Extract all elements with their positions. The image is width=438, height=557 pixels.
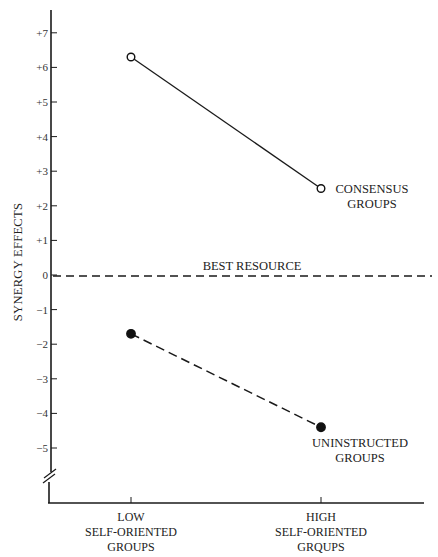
y-tick-label: −2 — [36, 338, 48, 350]
y-tick-label: −5 — [36, 442, 48, 454]
series-line — [131, 334, 321, 427]
open-circle-marker — [127, 53, 135, 61]
x-category-label: GROUPS — [107, 540, 154, 554]
synergy-chart: SYNERGY EFFECTS +7+6+5+4+3+2+10−1−2−3−4−… — [0, 0, 438, 557]
y-tick-label: +2 — [36, 200, 48, 212]
axis-break-mark — [44, 469, 56, 478]
series-line — [131, 57, 321, 188]
y-ticks: +7+6+5+4+3+2+10−1−2−3−4−5 — [36, 27, 57, 454]
y-tick-label: +5 — [36, 96, 48, 108]
filled-circle-marker — [317, 423, 325, 431]
y-tick-label: −4 — [36, 407, 48, 419]
y-tick-label: −3 — [36, 373, 48, 385]
series-label: GROUPS — [335, 451, 384, 465]
y-tick-label: +4 — [36, 131, 48, 143]
x-category-label: SELF-ORIENTED — [85, 525, 177, 539]
x-category-label: LOW — [117, 510, 145, 524]
series-label: UNINSTRUCTED — [312, 436, 408, 450]
filled-circle-marker — [127, 330, 135, 338]
y-tick-label: +7 — [36, 27, 48, 39]
y-tick-label: +6 — [36, 61, 48, 73]
y-tick-label: +3 — [36, 165, 48, 177]
x-category-label: SELF-ORIENTED — [275, 525, 367, 539]
y-axis-title: SYNERGY EFFECTS — [11, 203, 25, 321]
x-category-label: HIGH — [306, 510, 336, 524]
y-axis — [43, 10, 56, 503]
x-axis — [48, 497, 424, 503]
axis-break-mark — [43, 474, 55, 483]
series-label: CONSENSUS — [336, 182, 409, 196]
reference-line-label: BEST RESOURCE — [203, 259, 302, 273]
open-circle-marker — [317, 185, 325, 193]
best-resource-line: BEST RESOURCE — [53, 259, 432, 276]
y-tick-label: −1 — [36, 304, 48, 316]
series-label: GROUPS — [347, 197, 396, 211]
x-category-label: GRQUPS — [297, 540, 344, 554]
y-tick-label: +1 — [36, 234, 48, 246]
y-tick-label: 0 — [43, 269, 49, 281]
x-category-labels: LOWSELF-ORIENTEDGROUPSHIGHSELF-ORIENTEDG… — [85, 510, 367, 554]
